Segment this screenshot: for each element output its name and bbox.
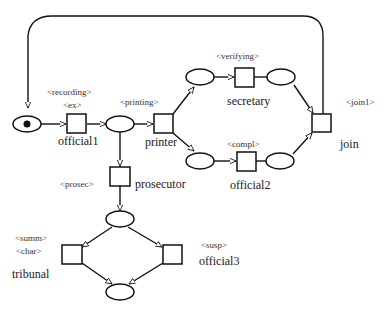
label-official2: official2 — [230, 179, 270, 191]
transition-secretary — [235, 68, 254, 87]
label-susp: <susp> — [201, 241, 227, 250]
label-tribunal: tribunal — [12, 268, 49, 280]
arc-bottomright-join — [293, 133, 312, 154]
place-top-left — [186, 69, 214, 85]
label-printing: <printing> — [120, 98, 159, 107]
transition-tribunal — [62, 245, 82, 264]
transition-official3 — [163, 245, 182, 264]
label-prosecutor: prosecutor — [135, 178, 186, 190]
arc-place-tribunal — [82, 227, 112, 247]
place-bottom-right — [266, 153, 294, 169]
label-join: join — [340, 138, 359, 150]
label-summ: <summ> — [15, 234, 47, 243]
label-prosec: <prosec> — [60, 180, 94, 189]
place-end — [106, 284, 134, 300]
label-compl: <compl> — [227, 140, 260, 149]
label-secretary: secretary — [227, 95, 270, 107]
arc-topright-join — [294, 85, 313, 113]
transition-prosecutor — [110, 167, 130, 186]
place-bottom-left — [186, 153, 214, 169]
transition-printer — [154, 114, 173, 133]
place-after-official1 — [106, 116, 134, 132]
label-verifying: <verifying> — [216, 52, 259, 61]
place-after-prosecutor — [106, 211, 134, 227]
label-official3: official3 — [199, 255, 239, 267]
label-official1: official1 — [58, 135, 98, 147]
label-char: <char> — [16, 247, 42, 256]
place-top-right — [267, 69, 295, 85]
label-join1: <join1> — [346, 98, 375, 107]
diagram-graphics — [0, 0, 390, 312]
transition-join — [312, 114, 331, 132]
arc-printer-top — [173, 87, 194, 114]
transition-official1 — [67, 114, 86, 133]
arc-tribunal-end — [82, 263, 112, 284]
token-icon — [24, 121, 31, 128]
transition-official2 — [237, 152, 256, 171]
label-recording: <recording> — [47, 88, 92, 97]
arc-official3-end — [129, 263, 163, 284]
label-printer: printer — [145, 136, 177, 148]
arc-place-official3 — [128, 227, 162, 247]
petri-net-diagram: <recording> <ex> official1 <printing> pr… — [0, 0, 390, 312]
label-ex: <ex> — [63, 101, 82, 110]
